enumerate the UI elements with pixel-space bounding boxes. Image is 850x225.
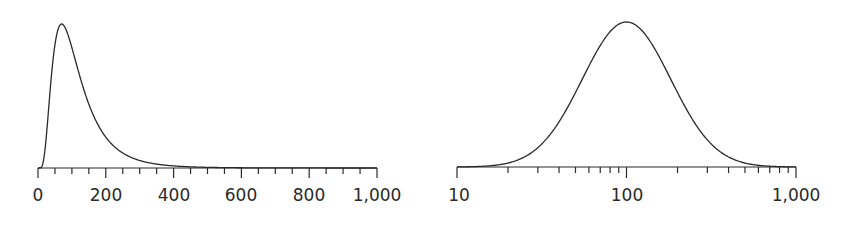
left-tick-label-400: 400 — [158, 185, 190, 205]
right-tick-label-10: 10 — [448, 185, 470, 205]
left-density-curve — [38, 24, 377, 168]
left-tick-label-600: 600 — [225, 185, 257, 205]
left-tick-label-1000: 1,000 — [353, 185, 402, 205]
right-x-ticks — [457, 167, 796, 178]
left-tick-label-800: 800 — [293, 185, 325, 205]
left-tick-label-0: 0 — [33, 185, 44, 205]
right-x-tick-labels: 10 100 1,000 — [448, 185, 820, 205]
left-x-tick-labels: 0 200 400 600 800 1,000 — [33, 185, 402, 205]
left-x-ticks — [38, 168, 377, 178]
chart-canvas: 0 200 400 600 800 1,000 10 100 1,000 — [0, 0, 850, 225]
right-tick-label-100: 100 — [611, 185, 643, 205]
right-chart: 10 100 1,000 — [448, 22, 820, 205]
right-tick-label-1000: 1,000 — [772, 185, 821, 205]
right-density-curve — [457, 22, 796, 167]
left-tick-label-200: 200 — [90, 185, 122, 205]
left-chart: 0 200 400 600 800 1,000 — [33, 24, 402, 205]
